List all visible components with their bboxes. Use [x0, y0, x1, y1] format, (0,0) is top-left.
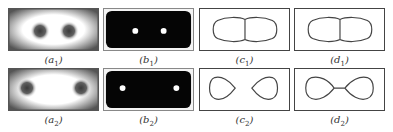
contour-curve — [213, 17, 277, 41]
contour-c2 — [200, 69, 289, 110]
contour-lobe-right — [252, 77, 278, 99]
contour-d1 — [295, 9, 384, 50]
contour-curve — [306, 77, 373, 99]
panel-d2 — [294, 68, 385, 111]
dot-left — [120, 85, 126, 91]
dot-right — [173, 85, 179, 91]
caption-a2: (a2) — [8, 114, 99, 130]
caption-b2: (b2) — [103, 114, 194, 130]
dot-left — [132, 28, 138, 34]
panel-b2 — [103, 68, 194, 111]
panel-a2 — [8, 68, 99, 111]
panel-c2 — [199, 68, 290, 111]
blob-right — [59, 21, 79, 41]
mask-region — [106, 11, 191, 48]
panel-d1 — [294, 8, 385, 51]
grayscale-field-a1 — [8, 8, 99, 51]
contour-lobe-left — [210, 77, 236, 99]
contour-c1 — [200, 9, 289, 50]
panel-c1 — [199, 8, 290, 51]
panel-a1 — [8, 8, 99, 51]
caption-c2: (c2) — [199, 114, 290, 130]
grayscale-field-a2 — [8, 68, 99, 111]
binary-mask-b1 — [104, 9, 193, 50]
dot-right — [161, 28, 167, 34]
contour-d2 — [295, 69, 384, 110]
caption-d2: (d2) — [294, 114, 385, 130]
binary-mask-b2 — [104, 69, 193, 110]
panel-b1 — [103, 8, 194, 51]
blob-right — [71, 78, 91, 98]
blob-left — [17, 78, 37, 98]
contour-curve — [308, 17, 372, 41]
blob-left — [30, 21, 50, 41]
